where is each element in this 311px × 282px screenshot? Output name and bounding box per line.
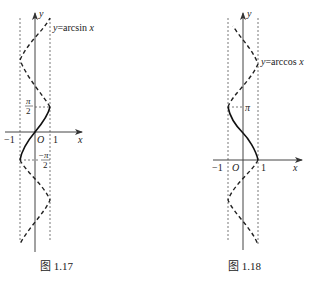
diagram-canvas: y x y=arcsin x −1 O 1 π 2 −π 2 图 1.17 y …: [0, 0, 311, 282]
figure-caption: 图 1.17: [40, 260, 74, 272]
y-axis-label: y: [246, 8, 252, 19]
neg-pi-half-num: −π: [38, 150, 49, 160]
pi-half-num: π: [26, 96, 31, 106]
curve-label: y=arcsin x: [52, 22, 94, 33]
figure-arccos: y x y=arccos x −1 O 1 π 图 1.18: [212, 8, 304, 272]
tick-pos1: 1: [261, 162, 266, 173]
figure-arcsin: y x y=arcsin x −1 O 1 π 2 −π 2 图 1.17: [4, 8, 94, 272]
origin-label: O: [37, 134, 44, 145]
tick-neg1: −1: [212, 162, 223, 173]
tick-pos1: 1: [53, 134, 58, 145]
y-axis-label: y: [38, 8, 44, 19]
tick-neg1: −1: [4, 134, 15, 145]
x-axis-label: x: [77, 134, 83, 145]
pi-label: π: [245, 102, 251, 113]
figure-caption: 图 1.18: [228, 260, 262, 272]
origin-label: O: [232, 162, 239, 173]
x-axis-label: x: [292, 162, 298, 173]
curve-label: y=arccos x: [260, 56, 304, 67]
pi-half-den: 2: [26, 106, 31, 116]
neg-pi-half-den: 2: [43, 160, 48, 170]
